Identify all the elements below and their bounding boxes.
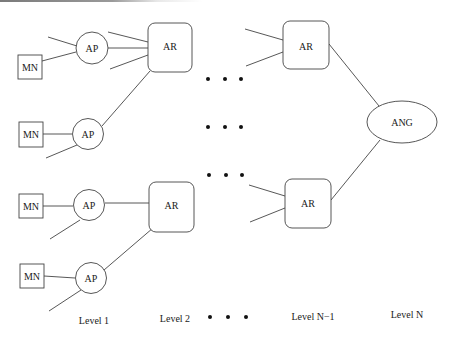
edge-ap4-ar2 — [104, 228, 153, 270]
ap-node-4: AP — [76, 263, 107, 294]
edge-stub — [110, 55, 148, 69]
edge-stub — [246, 52, 283, 66]
mn-label: MN — [23, 201, 39, 212]
level-n-label: Level N — [391, 309, 424, 320]
ar-label: AR — [299, 41, 313, 52]
edge-stub — [50, 220, 80, 239]
ar-node-2: AR — [149, 182, 194, 232]
ap-label: AP — [82, 129, 95, 140]
mn-label: MN — [22, 62, 38, 73]
ellipsis-row-1 — [206, 77, 243, 81]
ap-label: AP — [85, 273, 98, 284]
mn-node-4: MN — [20, 264, 44, 288]
mn-node-1: MN — [18, 55, 42, 79]
ap-label: AP — [83, 200, 96, 211]
mn-node-3: MN — [19, 194, 43, 218]
mn-node-2: MN — [19, 122, 43, 147]
edge-stub — [48, 37, 77, 46]
ap-node-2: AP — [73, 119, 104, 150]
edge-stub — [249, 185, 285, 196]
ar-label: AR — [301, 198, 315, 209]
ar-node-4: AR — [285, 179, 331, 228]
level-2-label: Level 2 — [160, 313, 190, 324]
level-n-minus-1-label: Level N−1 — [291, 311, 334, 322]
edge-ar3-ang — [329, 44, 379, 106]
edge-ar4-ang — [331, 140, 380, 200]
ar-label: AR — [163, 41, 177, 52]
ap-label: AP — [86, 43, 99, 54]
ar-node-1: AR — [148, 23, 192, 72]
ap-node-1: AP — [76, 32, 108, 64]
mn-label: MN — [24, 271, 40, 282]
mn-label: MN — [23, 129, 39, 140]
ellipsis-row-2 — [206, 125, 243, 129]
edge-stub — [46, 145, 77, 158]
ellipsis-row-3 — [207, 173, 244, 177]
edge-stub — [250, 208, 285, 222]
ar-node-3: AR — [283, 21, 329, 69]
edge-ap2-ar1 — [102, 71, 150, 126]
ang-node: ANG — [367, 101, 437, 143]
ar-label: AR — [165, 200, 179, 211]
level-1-label: Level 1 — [79, 315, 109, 326]
edge-mn4-ap4 — [44, 276, 75, 278]
edge-mn1-ap1 — [42, 52, 76, 61]
edge-stub — [108, 32, 148, 42]
edge-stub — [49, 290, 81, 311]
network-diagram: MN MN MN MN AP AP AP AP AR AR AR — [0, 0, 449, 340]
ap-node-3: AP — [74, 190, 105, 221]
ang-label: ANG — [391, 117, 413, 128]
ellipsis-levels — [208, 315, 248, 319]
edge-stub — [245, 29, 283, 40]
